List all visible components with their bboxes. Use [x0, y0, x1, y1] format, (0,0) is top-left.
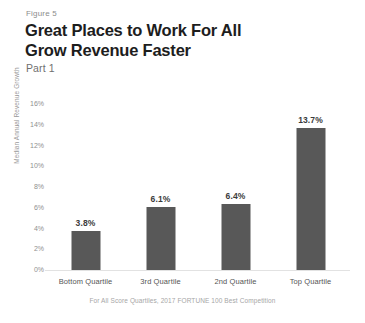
- bar-group: 13.7%: [273, 104, 348, 270]
- y-axis-tick-label: 0%: [18, 266, 44, 274]
- y-axis-tick-label: 2%: [18, 245, 44, 253]
- bar[interactable]: [71, 231, 100, 270]
- y-axis-title: Median Annual Revenue Growth: [13, 36, 20, 196]
- figure-container: Figure 5 Great Places to Work For All Gr…: [0, 0, 365, 323]
- bar-group: 3.8%: [48, 104, 123, 270]
- bar-value-label: 6.4%: [226, 191, 246, 201]
- page-title: Great Places to Work For All Grow Revenu…: [25, 20, 325, 60]
- figure-subtitle: Part 1: [26, 62, 55, 74]
- y-axis-tick-label: 12%: [18, 142, 44, 150]
- y-axis-tick-label: 6%: [18, 204, 44, 212]
- y-axis-tick-label: 16%: [18, 100, 44, 108]
- title-line-2: Grow Revenue Faster: [25, 40, 325, 60]
- figure-label: Figure 5: [26, 8, 57, 19]
- bar-group: 6.4%: [198, 104, 273, 270]
- bar-value-label: 13.7%: [298, 115, 323, 125]
- bar[interactable]: [221, 204, 250, 270]
- bar[interactable]: [146, 207, 175, 270]
- x-axis-baseline: [45, 270, 350, 271]
- title-line-1: Great Places to Work For All: [25, 21, 241, 39]
- x-axis-tick-label: Top Quartile: [266, 277, 356, 286]
- y-axis-tick-label: 10%: [18, 162, 44, 170]
- y-axis-tick-label: 4%: [18, 225, 44, 233]
- y-axis-tick-label: 14%: [18, 121, 44, 129]
- plot-area: 3.8%6.1%6.4%13.7%: [48, 104, 348, 270]
- bar-value-label: 3.8%: [76, 218, 96, 228]
- bar[interactable]: [296, 128, 325, 270]
- y-axis-tick-label: 8%: [18, 183, 44, 191]
- bar-value-label: 6.1%: [151, 194, 171, 204]
- bar-group: 6.1%: [123, 104, 198, 270]
- chart-annotation: For All Score Quartiles, 2017 FORTUNE 10…: [0, 297, 365, 304]
